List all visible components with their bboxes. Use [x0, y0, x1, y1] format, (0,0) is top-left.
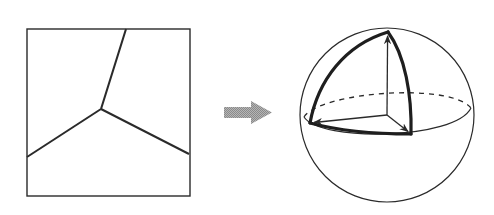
transition-arrow-icon — [224, 101, 272, 124]
junction-branch-left — [27, 109, 101, 157]
vector-right-arrow — [387, 115, 408, 132]
vector-up-arrow — [387, 36, 388, 115]
right-panel-sphere — [300, 28, 474, 202]
figure — [0, 0, 494, 215]
vector-left-arrow — [314, 115, 387, 123]
triangle-edge-left-top — [310, 32, 388, 123]
left-panel-square-junction — [27, 29, 190, 196]
junction-branch-top — [101, 29, 126, 109]
junction-branch-right — [101, 109, 189, 154]
